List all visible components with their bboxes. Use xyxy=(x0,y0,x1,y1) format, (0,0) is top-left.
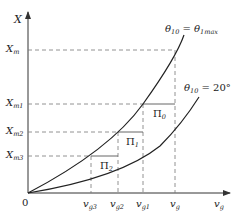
y-tick-xm1: Xm1 xyxy=(6,98,23,110)
x-tick-vg: vg xyxy=(170,199,180,211)
origin-label: 0 xyxy=(22,198,28,208)
region-pi2: Π2 xyxy=(100,161,113,173)
region-pi0: Π0 xyxy=(153,109,166,121)
y-tick-xm3: Xm3 xyxy=(6,150,23,162)
x-tick-vg2: vg2 xyxy=(110,199,124,211)
theta-20-label: θ10 = 20° xyxy=(184,83,231,95)
y-tick-xm2: Xm2 xyxy=(6,126,23,138)
x-tick-vg3: vg3 xyxy=(83,199,97,211)
theta-max-label: θ10 = θ1max xyxy=(165,24,218,36)
x-tick-vg1: vg1 xyxy=(136,199,150,211)
y-axis-label: X xyxy=(14,14,22,25)
x-axis-label: vg xyxy=(214,199,224,211)
diagram-canvas: X vg 0 Xm Xm1 Xm2 Xm3 vg3 vg2 vg1 vg θ10… xyxy=(0,0,235,220)
y-tick-xm: Xm xyxy=(6,44,19,56)
region-pi1: Π1 xyxy=(126,137,139,149)
